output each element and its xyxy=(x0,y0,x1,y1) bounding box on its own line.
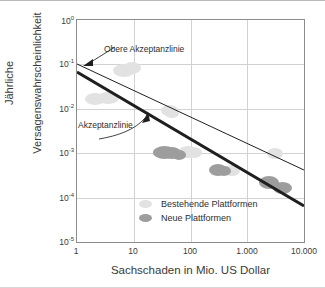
arrowhead-akzeptanz xyxy=(142,112,150,123)
chart-figure: Jährliche Versagenswahrscheinlichkeit 10… xyxy=(0,0,325,288)
data-point-neu xyxy=(172,150,186,160)
data-point-existing xyxy=(267,148,283,159)
legend-swatch-neu-icon xyxy=(139,214,152,222)
y-tick-mantissa: 10 xyxy=(59,59,68,69)
y-tick-label-0: 100 xyxy=(46,15,74,26)
y-axis-title-line2: Versagenswahrscheinlichkeit xyxy=(30,0,44,188)
y-tick-exponent: -1 xyxy=(69,58,74,64)
y-tick-mantissa: 10 xyxy=(61,16,70,26)
y-tick-label-3: 10-3 xyxy=(46,147,74,158)
y-axis-title: Jährliche Versagenswahrscheinlichkeit xyxy=(0,0,58,188)
annotation-obere-akzeptanzlinie: Obere Akzeptanzlinie xyxy=(104,44,184,54)
data-point-existing xyxy=(97,92,119,104)
y-tick-mantissa: 10 xyxy=(59,104,68,114)
data-point-existing xyxy=(185,147,202,158)
x-tick-label-2: 100 xyxy=(170,246,210,256)
x-tick-label-4: 10.000 xyxy=(284,246,324,256)
y-tick-exponent: -3 xyxy=(69,147,74,153)
y-tick-exponent: -5 xyxy=(69,236,74,242)
data-point-neu xyxy=(217,166,231,176)
data-point-existing xyxy=(123,62,141,74)
legend-item-existing: Bestehende Plattformen xyxy=(139,197,258,211)
legend-item-neu: Neue Plattformen xyxy=(139,211,258,225)
y-tick-exponent: -4 xyxy=(69,192,74,198)
y-tick-mantissa: 10 xyxy=(59,193,68,203)
x-axis-title: Sachschaden in Mio. US Dollar xyxy=(76,264,305,276)
x-tick-label-3: 1.000 xyxy=(227,246,267,256)
y-tick-label-2: 10-2 xyxy=(46,103,74,114)
x-tick-label-1: 10 xyxy=(113,246,153,256)
y-tick-exponent: -2 xyxy=(69,103,74,109)
legend-label-neu: Neue Plattformen xyxy=(161,213,231,223)
y-axis-title-line1: Jährliche xyxy=(2,0,16,188)
y-tick-label-1: 10-1 xyxy=(46,58,74,69)
data-point-existing xyxy=(165,109,179,118)
y-tick-exponent: 0 xyxy=(71,15,74,21)
chart-legend: Bestehende Plattformen Neue Plattformen xyxy=(139,197,258,225)
y-tick-label-4: 10-4 xyxy=(46,192,74,203)
legend-swatch-existing-icon xyxy=(139,200,152,208)
data-point-neu xyxy=(273,182,292,194)
x-tick-label-0: 1 xyxy=(56,246,96,256)
y-tick-mantissa: 10 xyxy=(59,148,68,158)
annotation-akzeptanzlinie: Akzeptanzlinie xyxy=(78,120,133,130)
legend-label-existing: Bestehende Plattformen xyxy=(161,199,258,209)
